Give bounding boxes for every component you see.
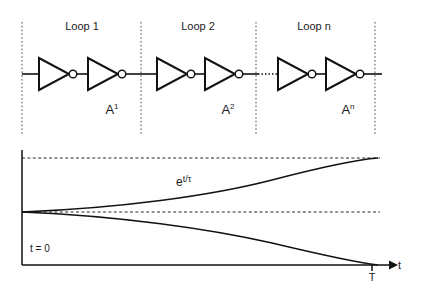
exponential-label-superscript: t/τ: [183, 174, 192, 184]
loop-2-group: Loop 2 A2: [157, 20, 243, 117]
inverter-na-triangle: [278, 58, 308, 90]
amplitude-superscript-1: 1: [114, 102, 119, 111]
period-axis-label: T: [369, 271, 376, 283]
upper-exponential-curve: [22, 158, 378, 212]
inverter-na-bubble-icon: [308, 70, 316, 78]
lower-exponential-curve: [22, 212, 378, 265]
amplitude-base-1: A: [105, 102, 114, 117]
loop-1-group: Loop 1 A1: [39, 20, 126, 117]
loop-n-group: Loop n An: [278, 20, 364, 117]
inverter-nb-bubble-icon: [356, 70, 364, 78]
inverter-2a-triangle: [157, 58, 187, 90]
exponential-curve-label: et/τ: [176, 174, 192, 189]
time-axis-label: t: [398, 259, 401, 271]
figure-canvas: Loop 1 A1 Loop 2 A2 Loop n: [0, 0, 421, 296]
amplitude-base-2: A: [221, 102, 230, 117]
inverter-chain-panel: Loop 1 A1 Loop 2 A2 Loop n: [22, 20, 382, 136]
inverter-nb-triangle: [326, 58, 356, 90]
inverter-2b-triangle: [205, 58, 235, 90]
loop-dividers: [22, 22, 375, 136]
loop-2-label: Loop 2: [181, 20, 215, 32]
inverter-1b-bubble-icon: [118, 70, 126, 78]
amplitude-label-1: A1: [105, 102, 119, 117]
amplitude-label-n: An: [341, 102, 354, 117]
figure-root: Loop 1 A1 Loop 2 A2 Loop n: [0, 0, 421, 296]
origin-time-label: t = 0: [30, 243, 50, 254]
exponential-plot-panel: et/τ t = 0 T t: [22, 150, 401, 283]
loop-n-label: Loop n: [297, 20, 331, 32]
inverter-1a-triangle: [39, 58, 69, 90]
inverter-2a-bubble-icon: [187, 70, 195, 78]
inverter-1b-triangle: [88, 58, 118, 90]
x-axis-arrow-icon: [389, 261, 398, 270]
inverter-2b-bubble-icon: [235, 70, 243, 78]
amplitude-label-2: A2: [221, 102, 235, 117]
amplitude-base-n: A: [341, 102, 350, 117]
inverter-1a-bubble-icon: [69, 70, 77, 78]
amplitude-superscript-n: n: [350, 102, 354, 111]
loop-1-label: Loop 1: [65, 20, 99, 32]
amplitude-superscript-2: 2: [230, 102, 235, 111]
